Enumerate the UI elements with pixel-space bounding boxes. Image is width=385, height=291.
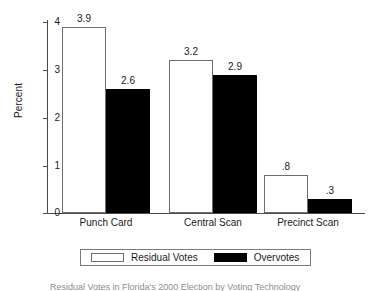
- bar-value-central-scan-residual-votes: 3.2: [169, 47, 213, 57]
- legend-swatch-overvotes: [214, 253, 247, 262]
- bar-central-scan-overvotes[interactable]: [213, 75, 257, 213]
- figure-caption-text: Residual Votes in Florida's 2000 Electio…: [50, 283, 350, 291]
- y-tick-label-2: 2: [38, 113, 60, 123]
- y-tick-label-3: 3: [38, 65, 60, 75]
- legend-label-overvotes: Overvotes: [254, 253, 300, 263]
- bar-value-precinct-scan-residual-votes: .8: [264, 162, 308, 172]
- bar-value-central-scan-overvotes: 2.9: [213, 62, 257, 72]
- bar-central-scan-residual-votes[interactable]: [169, 60, 213, 213]
- bar-value-precinct-scan-overvotes: .3: [308, 186, 352, 196]
- y-axis-title: Percent: [13, 71, 24, 131]
- bar-precinct-scan-residual-votes[interactable]: [264, 175, 308, 213]
- chart-legend: Residual Votes Overvotes: [80, 249, 311, 266]
- legend-label-residual-votes: Residual Votes: [131, 253, 198, 263]
- figure-caption-clipped: Residual Votes in Florida's 2000 Electio…: [0, 283, 385, 291]
- x-axis-line: [47, 213, 365, 214]
- x-category-label-punch-card: Punch Card: [56, 217, 156, 228]
- legend-swatch-residual-votes: [91, 253, 124, 262]
- y-tick-label-1: 1: [38, 161, 60, 171]
- bar-value-punch-card-overvotes: 2.6: [106, 76, 150, 86]
- x-category-label-precinct-scan: Precinct Scan: [258, 217, 358, 228]
- bar-precinct-scan-overvotes[interactable]: [308, 199, 352, 213]
- legend-entry-residual-votes[interactable]: Residual Votes: [91, 253, 198, 263]
- legend-entry-overvotes[interactable]: Overvotes: [214, 253, 300, 263]
- bar-value-punch-card-residual-votes: 3.9: [62, 14, 106, 24]
- bar-chart-figure: Percent 4 3 2 1 0 3.9 2.6 Punch Card 3.2…: [0, 0, 385, 291]
- bar-punch-card-overvotes[interactable]: [106, 89, 150, 213]
- bar-punch-card-residual-votes[interactable]: [62, 27, 106, 213]
- x-category-label-central-scan: Central Scan: [163, 217, 263, 228]
- y-tick-label-4: 4: [38, 17, 60, 27]
- plot-area: Percent 4 3 2 1 0 3.9 2.6 Punch Card 3.2…: [0, 0, 385, 291]
